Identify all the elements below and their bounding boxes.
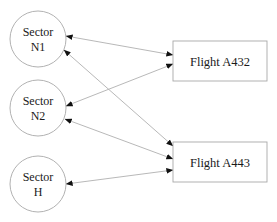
sector-circle <box>10 80 66 136</box>
sector-label-line1: Sector <box>23 170 54 184</box>
edges-layer <box>64 36 173 184</box>
sector-label-line1: Sector <box>23 25 54 39</box>
sector-label-line2: H <box>34 185 43 199</box>
flight-label: Flight A432 <box>190 55 250 69</box>
sector-circle <box>10 156 66 212</box>
sector-label-line2: N1 <box>31 40 46 54</box>
edge-n2-a432 <box>66 64 173 106</box>
sector-node-n1: SectorN1 <box>10 11 66 67</box>
flights-layer: Flight A432Flight A443 <box>173 41 267 182</box>
edge-n1-a443 <box>64 50 173 146</box>
flight-label: Flight A443 <box>190 156 250 170</box>
sector-label-line2: N2 <box>31 109 46 123</box>
edge-n1-a432 <box>66 36 173 55</box>
sector-circle <box>10 11 66 67</box>
sector-node-h: SectorH <box>10 156 66 212</box>
flight-node-a443: Flight A443 <box>173 142 267 182</box>
edge-n2-a443 <box>65 119 173 159</box>
sectors-layer: SectorN1SectorN2SectorH <box>10 11 66 212</box>
sector-flight-diagram: SectorN1SectorN2SectorH Flight A432Fligh… <box>0 0 277 222</box>
flight-node-a432: Flight A432 <box>173 41 267 81</box>
sector-node-n2: SectorN2 <box>10 80 66 136</box>
sector-label-line1: Sector <box>23 94 54 108</box>
edge-h-a443 <box>66 170 173 184</box>
